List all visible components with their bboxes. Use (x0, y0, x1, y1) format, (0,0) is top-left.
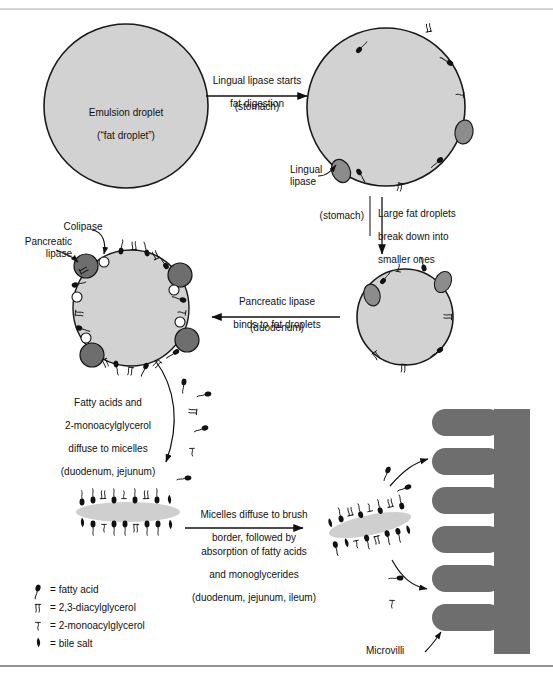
legend-item: = 2,3-diacylglycerol (50, 602, 136, 613)
legend-equals: = (50, 638, 56, 649)
arrow5-label-below: absorption of fatty acids and monoglycer… (184, 534, 324, 615)
arrow5-below-line2: and monoglycerides (184, 569, 324, 581)
arrow4-line1: Fatty acids and (56, 397, 160, 409)
arrow4-line4: (duodenum, jejunum) (56, 466, 160, 478)
pancreatic-lipase-callout: Pancreatic lipase (6, 236, 72, 259)
microvilli-group (432, 409, 530, 654)
legend-glyphs (32, 584, 41, 647)
arrow3-sublabel: (duodenum) (213, 322, 341, 334)
colipase-blob (175, 317, 185, 327)
arrow2-line1: Large fat droplets (378, 208, 498, 220)
pancreatic-lipase-blob (74, 254, 98, 278)
legend-item: = fatty acid (50, 584, 99, 595)
arrow5-above-line1: Micelles diffuse to brush (188, 509, 320, 521)
legend-item: = bile salt (50, 638, 93, 649)
free-lipids-group (176, 378, 212, 482)
legend-equals: = (50, 584, 56, 595)
arrow4-line3: diffuse to micelles (56, 443, 160, 455)
micelle-core (76, 502, 180, 522)
colipase-leader (92, 230, 105, 254)
arrow4-line2: 2-monoacylglycerol (56, 420, 160, 432)
arrow4-label: Fatty acids and 2-monoacylglycerol diffu… (56, 385, 160, 489)
arrow5-below-line1: absorption of fatty acids (184, 546, 324, 558)
legend-equals: = (50, 620, 56, 631)
emulsion-droplet-line1: Emulsion droplet (66, 107, 186, 119)
microvilli-fingers (432, 409, 502, 631)
arrow2-line2: break down into (378, 231, 498, 243)
absorption-arrow-upper (390, 459, 428, 486)
emulsion-droplet-label: Emulsion droplet (“fat droplet”) (66, 95, 186, 153)
colipase-blob (72, 292, 82, 302)
colipase-blob (81, 333, 91, 343)
figure-canvas: Emulsion droplet (“fat droplet”) Lingual… (0, 0, 553, 675)
legend-label: 2,3-diacylglycerol (59, 602, 136, 613)
absorption-arrow-lower (392, 560, 427, 589)
colipase-callout: Colipase (54, 221, 112, 233)
arrow3-above-line1: Pancreatic lipase (213, 296, 341, 308)
microvilli-callout: Microvilli (366, 645, 426, 657)
arrow1-sublabel: (stomach) (206, 101, 308, 113)
emulsion-droplet-line2: (“fat droplet”) (66, 130, 186, 142)
micelle-left-group (76, 488, 180, 535)
colipase-blob (169, 285, 179, 295)
legend-equals: = (50, 602, 56, 613)
pancreatic-droplet-group (71, 239, 199, 377)
legend-label: 2-monoacylglycerol (59, 620, 145, 631)
microvilli-leader (425, 632, 441, 652)
legend-item: = 2-monoacylglycerol (50, 620, 145, 631)
micelle-right-group (324, 493, 416, 557)
pancreatic-lipase-blob (168, 263, 192, 287)
stomach-droplet-shape (307, 28, 465, 186)
legend-label: fatty acid (59, 584, 99, 595)
absorbed-lipids-group (381, 466, 412, 609)
arrow1-above-line1: Lingual lipase starts (206, 75, 308, 87)
legend-label: bile salt (59, 638, 93, 649)
pancreatic-lipase-blob (80, 343, 104, 367)
arrow2-sublabel: (stomach) (296, 210, 364, 222)
arrow2-label: Large fat droplets break down into small… (378, 196, 498, 277)
arrow2-line3: smaller ones (378, 254, 498, 266)
pancreatic-lipase-blob (175, 328, 199, 352)
arrow5-below-line3: (duodenum, jejunum, ileum) (184, 592, 324, 604)
colipase-blob (99, 257, 109, 267)
lingual-lipase-callout: Lingual lipase (290, 164, 350, 187)
